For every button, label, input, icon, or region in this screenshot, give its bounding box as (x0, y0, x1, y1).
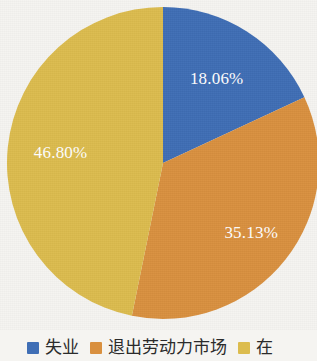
legend-swatch-yellow (238, 342, 250, 354)
pie-chart: 18.06% 35.13% 46.80% 失业 退出劳动力市场 在 (0, 0, 317, 361)
pie-slices (7, 7, 317, 319)
chart-legend: 失业 退出劳动力市场 在 (0, 334, 317, 361)
legend-label-employed: 在 (256, 339, 273, 356)
pie-label-employed: 46.80% (34, 143, 88, 162)
pie-svg: 18.06% 35.13% 46.80% (0, 0, 317, 330)
legend-label-exit-labor-market: 退出劳动力市场 (108, 339, 227, 356)
legend-item-employed[interactable]: 在 (238, 339, 273, 356)
legend-swatch-orange (90, 342, 102, 354)
legend-label-failure: 失业 (45, 339, 79, 356)
pie-label-exit-labor-market: 35.13% (224, 223, 278, 242)
legend-item-failure[interactable]: 失业 (27, 339, 79, 356)
legend-swatch-blue (27, 342, 39, 354)
pie-plot-area: 18.06% 35.13% 46.80% (0, 0, 317, 330)
pie-label-failure: 18.06% (190, 69, 244, 88)
legend-item-exit-labor-market[interactable]: 退出劳动力市场 (90, 339, 227, 356)
